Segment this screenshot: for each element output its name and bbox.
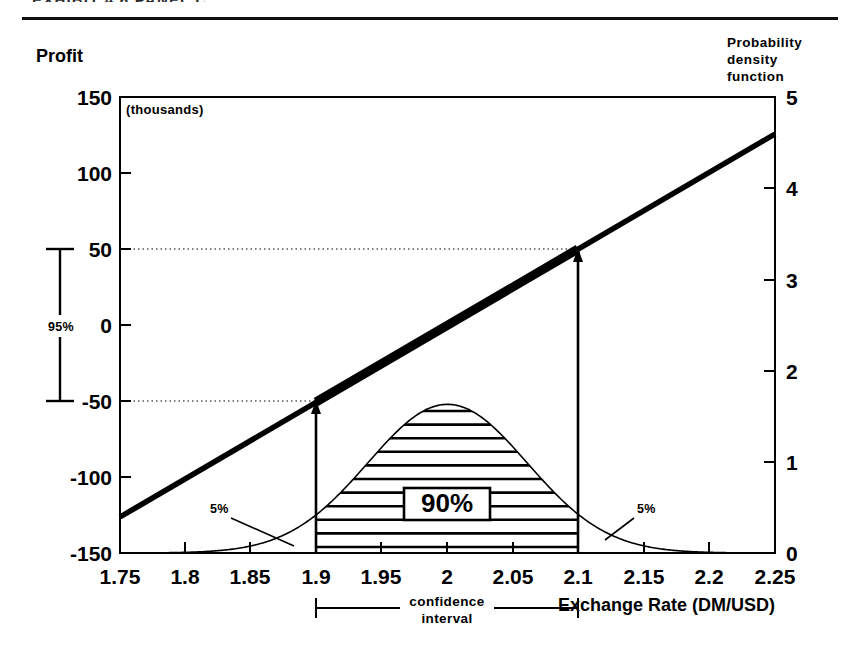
right-tick-label-5: 0: [786, 542, 798, 565]
right-axis-title-line3: function: [727, 69, 784, 84]
left-tick-label-4: -50: [82, 390, 112, 413]
x-tick-label-2: 1.85: [230, 565, 271, 588]
right-tick-label-1: 4: [786, 177, 798, 200]
x-tick-label-3: 1.9: [301, 565, 330, 588]
right-tick-label-4: 1: [786, 451, 798, 474]
left-axis-title: Profit: [36, 46, 83, 66]
right-axis-title-line2: density: [727, 52, 778, 67]
left-tick-label-1: 100: [77, 162, 112, 185]
x-tick-label-7: 2.1: [563, 565, 593, 588]
x-tick-label-1: 1.8: [170, 565, 200, 588]
left-tail-label: 5%: [210, 502, 229, 516]
x-tick-label-8: 2.15: [624, 565, 665, 588]
x-tick-label-0: 1.75: [100, 565, 141, 588]
left-tail-annotation: 5%: [210, 502, 294, 546]
right-axis-ticks: [764, 97, 775, 553]
right-axis-title-line1: Probability: [727, 35, 802, 50]
left-tick-label-6: -150: [70, 542, 112, 565]
right-tick-label-3: 2: [786, 360, 798, 383]
lower-bound-arrow: [311, 400, 321, 553]
exhibit-header-cropped: EXHIBIT 4.6 PANEL C: [32, 0, 208, 2]
header-rule: [22, 17, 838, 20]
x-tick-label-6: 2.05: [493, 565, 534, 588]
units-note: (thousands): [126, 102, 204, 117]
left-tick-label-5: -100: [70, 466, 112, 489]
right-tick-label-2: 3: [786, 269, 798, 292]
confidence-interval-label-line2: interval: [421, 611, 472, 626]
right-tail-annotation: 5%: [605, 502, 656, 540]
x-tick-label-9: 2.2: [694, 565, 723, 588]
left-tick-label-2: 50: [89, 238, 112, 261]
ninety-percent-label: 90%: [421, 488, 473, 518]
x-axis-labels: 1.75 1.8 1.85 1.9 1.95 2 2.05 2.1 2.15 2…: [100, 565, 796, 588]
confidence-interval-label-line1: confidence: [409, 594, 484, 609]
figure-panel: EXHIBIT 4.6 PANEL C Profit Probability d…: [0, 0, 855, 650]
x-axis-title: Exchange Rate (DM/USD): [558, 595, 775, 615]
right-tick-label-0: 5: [786, 86, 798, 109]
profit-vs-exchange-rate-chart: Profit Probability density function (tho…: [0, 0, 855, 650]
right-tail-label: 5%: [637, 502, 656, 516]
left-tick-label-3: 0: [100, 314, 112, 337]
x-tick-label-5: 2: [441, 565, 453, 588]
left-axis-ticks: [120, 97, 131, 553]
ninety-five-percent-label: 95%: [48, 320, 74, 334]
left-tick-label-0: 150: [77, 86, 112, 109]
x-tick-label-10: 2.25: [755, 565, 796, 588]
profit-confidence-segment: [316, 249, 578, 402]
right-axis-labels: 5 4 3 2 1 0: [786, 86, 798, 565]
upper-bound-arrow: [573, 248, 583, 553]
x-tick-label-4: 1.95: [361, 565, 402, 588]
